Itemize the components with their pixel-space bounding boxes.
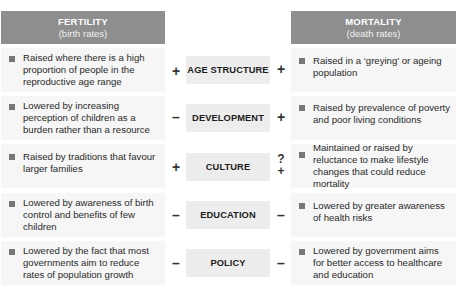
factor-development: DEVELOPMENT [186, 104, 270, 132]
mortality-cell-age-structure: Raised in a ‘greying’ or ageing populati… [291, 48, 456, 92]
mortality-text: Lowered by greater awareness of health r… [313, 200, 452, 224]
fertility-header-title: FERTILITY [1, 16, 165, 28]
mortality-sign-minus: – [274, 256, 288, 270]
mortality-sign-plus: + [277, 165, 284, 177]
mortality-text: Raised by prevalence of poverty and poor… [313, 102, 452, 126]
factor-education: EDUCATION [186, 201, 270, 229]
bullet-icon [9, 154, 15, 160]
factor-age-structure: AGE STRUCTURE [186, 56, 270, 84]
bullet-icon [9, 56, 15, 62]
bullet-icon [9, 104, 15, 110]
fertility-sign-minus: – [169, 110, 183, 124]
fertility-text: Raised by traditions that favour larger … [23, 151, 161, 175]
fertility-sign-minus: – [169, 256, 183, 270]
mortality-header-subtitle: (death rates) [291, 28, 456, 40]
bullet-icon [299, 58, 305, 64]
fertility-sign-minus: – [169, 208, 183, 222]
fertility-text: Lowered by awareness of birth control an… [23, 197, 161, 233]
mortality-cell-development: Raised by prevalence of poverty and poor… [291, 96, 456, 140]
bullet-icon [299, 203, 305, 209]
mortality-sign-plus: + [274, 62, 288, 76]
mortality-header-title: MORTALITY [291, 16, 456, 28]
fertility-cell-policy: Lowered by the fact that most government… [1, 241, 165, 285]
bullet-icon [9, 201, 15, 207]
factor-policy: POLICY [186, 249, 270, 277]
fertility-text: Raised where there is a high proportion … [23, 52, 161, 88]
fertility-cell-education: Lowered by awareness of birth control an… [1, 193, 165, 237]
fertility-header-subtitle: (birth rates) [1, 28, 165, 40]
mortality-cell-education: Lowered by greater awareness of health r… [291, 193, 456, 237]
fertility-text: Lowered by increasing perception of chil… [23, 100, 161, 136]
bullet-icon [299, 152, 305, 158]
mortality-sign-plus: + [274, 110, 288, 124]
mortality-text: Lowered by government aims for better ac… [313, 245, 452, 281]
fertility-sign-plus: + [169, 160, 183, 174]
bullet-icon [299, 105, 305, 111]
mortality-sign-uncertain: ? + [274, 153, 288, 177]
mortality-sign-minus: – [274, 208, 288, 222]
bullet-icon [299, 249, 305, 255]
fertility-header: FERTILITY (birth rates) [1, 11, 165, 44]
mortality-header: MORTALITY (death rates) [291, 11, 456, 44]
mortality-text: Raised in a ‘greying’ or ageing populati… [313, 55, 452, 79]
fertility-cell-development: Lowered by increasing perception of chil… [1, 96, 165, 140]
mortality-cell-policy: Lowered by government aims for better ac… [291, 241, 456, 285]
fertility-text: Lowered by the fact that most government… [23, 245, 161, 281]
factor-culture: CULTURE [186, 153, 270, 181]
mortality-cell-culture: Maintained or raised by reluctance to ma… [291, 144, 456, 188]
fertility-sign-plus: + [169, 64, 183, 78]
fertility-cell-culture: Raised by traditions that favour larger … [1, 144, 165, 188]
fertility-cell-age-structure: Raised where there is a high proportion … [1, 48, 165, 92]
bullet-icon [9, 249, 15, 255]
mortality-text: Maintained or raised by reluctance to ma… [313, 142, 452, 190]
